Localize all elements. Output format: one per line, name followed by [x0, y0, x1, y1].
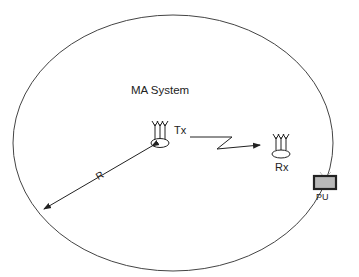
- pu-tv-icon: [314, 172, 336, 189]
- rx-label: Rx: [275, 161, 288, 173]
- pu-label: PU: [316, 192, 329, 202]
- tx-label: Tx: [174, 124, 186, 136]
- rx-antenna-icon: [272, 134, 290, 158]
- tx-antenna-icon: [151, 121, 169, 148]
- wireless-link-arrow: [190, 137, 260, 149]
- diagram-graphics: [0, 0, 359, 277]
- system-boundary-circle: [13, 15, 333, 271]
- system-label: MA System: [131, 84, 189, 96]
- diagram-canvas: MA System Tx Rx PU R: [0, 0, 359, 277]
